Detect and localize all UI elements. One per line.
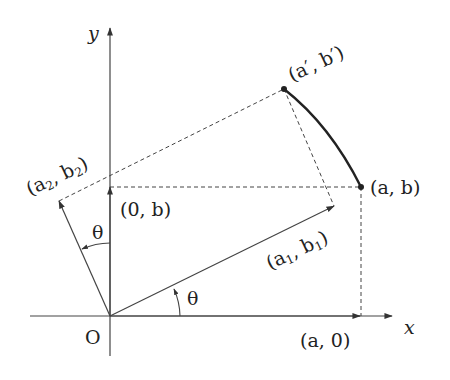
origin-label: O xyxy=(85,326,101,348)
label-a2-b2: (a2, b2) xyxy=(22,152,92,202)
construction-lines xyxy=(59,89,361,316)
vector-a2-b2 xyxy=(59,201,110,316)
theta-arc-upper xyxy=(82,243,110,249)
label-a1-b1: (a1, b1) xyxy=(262,226,332,276)
y-axis-label: y xyxy=(87,22,99,44)
label-a-prime-b-prime: (a′, b′) xyxy=(284,41,347,86)
theta-label-lower: θ xyxy=(187,287,198,309)
label-a-0: (a, 0) xyxy=(300,329,350,351)
label-0-b: (0, b) xyxy=(120,198,171,220)
vector-a1-b1 xyxy=(110,206,334,316)
point-a-b xyxy=(358,184,364,190)
theta-label-upper: θ xyxy=(92,221,103,243)
rotation-arc xyxy=(284,89,361,187)
theta-arc-lower xyxy=(174,289,180,316)
x-axis-label: x xyxy=(404,316,415,338)
point-a-prime-b-prime xyxy=(281,86,287,92)
label-a-b: (a, b) xyxy=(370,176,420,198)
rotation-diagram: y x O (a, b) (a, 0) (0, b) (a′, b′) (a1,… xyxy=(0,0,450,380)
